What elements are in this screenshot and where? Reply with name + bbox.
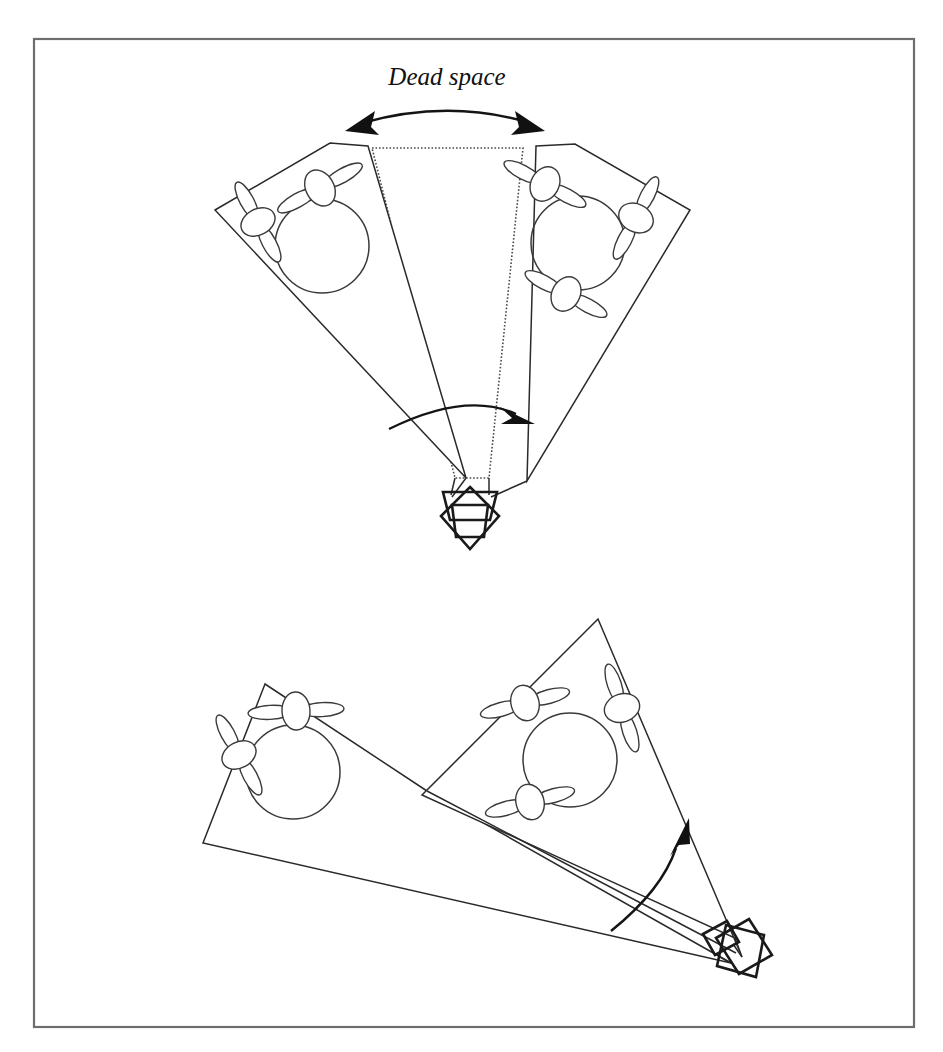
dead-space-label: Dead space <box>387 63 505 90</box>
dead-space-span-arrow <box>345 111 545 135</box>
top-sensor-vehicle-body <box>441 487 499 549</box>
arrow-head-left <box>345 111 379 135</box>
arrow-head-right <box>511 111 545 135</box>
top-configuration: Dead space <box>215 63 690 549</box>
top-left-sensor-footprint <box>215 143 466 478</box>
bottom-configuration <box>202 619 772 977</box>
sensor-coverage-diagram: Dead space <box>0 0 943 1052</box>
figure-root: Dead space <box>0 0 943 1052</box>
top-right-sensor-footprint <box>496 144 690 481</box>
